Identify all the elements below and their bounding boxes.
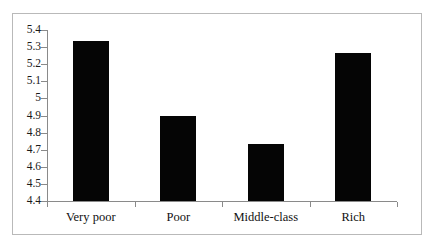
y-tick-label-text: 5.1 [15, 75, 41, 87]
y-tick-label-text: 4.6 [15, 161, 41, 173]
cut-off-caption-top [10, 0, 310, 6]
y-tick-mark [41, 64, 47, 65]
y-tick-label: 5 [13, 92, 41, 104]
plot-area: 5.45.35.25.154.94.84.74.64.54.4 Very poo… [13, 14, 421, 234]
y-tick-label-text: 4.8 [15, 127, 41, 139]
x-category-label: Poor [135, 210, 223, 225]
y-tick-mark [41, 150, 47, 151]
x-category-label: Very poor [47, 210, 135, 225]
y-tick-label-text: 5.2 [15, 58, 41, 70]
y-tick-label-text: 5.4 [15, 24, 41, 36]
y-tick-label: 5.1 [13, 75, 41, 87]
x-category-label: Middle-class [222, 210, 310, 225]
x-tick-mark [47, 202, 48, 207]
y-tick-label-text: 4.4 [15, 195, 41, 207]
y-tick-mark [41, 98, 47, 99]
x-tick-mark [397, 202, 398, 207]
y-tick-label: 4.6 [13, 161, 41, 173]
bar [160, 116, 196, 201]
y-tick-label-text: 5.3 [15, 41, 41, 53]
y-tick-label: 5.2 [13, 58, 41, 70]
y-tick-mark [41, 81, 47, 82]
y-tick-label: 4.4 [13, 195, 41, 207]
y-tick-mark [41, 184, 47, 185]
x-tick-mark [222, 202, 223, 207]
y-tick-label-text: 4.7 [15, 144, 41, 156]
y-tick-label: 5.4 [13, 24, 41, 36]
y-tick-label: 4.9 [13, 110, 41, 122]
bar [335, 53, 371, 201]
y-tick-mark [41, 30, 47, 31]
y-tick-label: 4.7 [13, 144, 41, 156]
y-tick-label: 4.5 [13, 178, 41, 190]
bar [73, 41, 109, 201]
y-tick-label-text: 4.5 [15, 178, 41, 190]
x-tick-mark [310, 202, 311, 207]
y-tick-mark [41, 167, 47, 168]
y-tick-mark [41, 116, 47, 117]
chart-frame: 5.45.35.25.154.94.84.74.64.54.4 Very poo… [12, 13, 422, 235]
x-tick-mark [135, 202, 136, 207]
y-tick-mark [41, 133, 47, 134]
y-tick-label-text: 5 [15, 92, 41, 104]
bar [248, 144, 284, 201]
y-axis-line [47, 30, 48, 202]
y-tick-label-text: 4.9 [15, 110, 41, 122]
y-tick-label: 5.3 [13, 41, 41, 53]
y-tick-label: 4.8 [13, 127, 41, 139]
y-tick-mark [41, 47, 47, 48]
x-category-label: Rich [310, 210, 398, 225]
